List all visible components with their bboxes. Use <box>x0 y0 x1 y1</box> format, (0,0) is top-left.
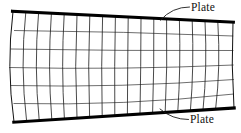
plate-mesh-figure: Plate Plate <box>0 0 241 133</box>
bottom-plate-label: Plate <box>190 114 214 126</box>
mesh-left-edge <box>10 12 14 122</box>
top-plate-label: Plate <box>191 2 215 14</box>
mesh-transverse-lines <box>9 31 234 104</box>
